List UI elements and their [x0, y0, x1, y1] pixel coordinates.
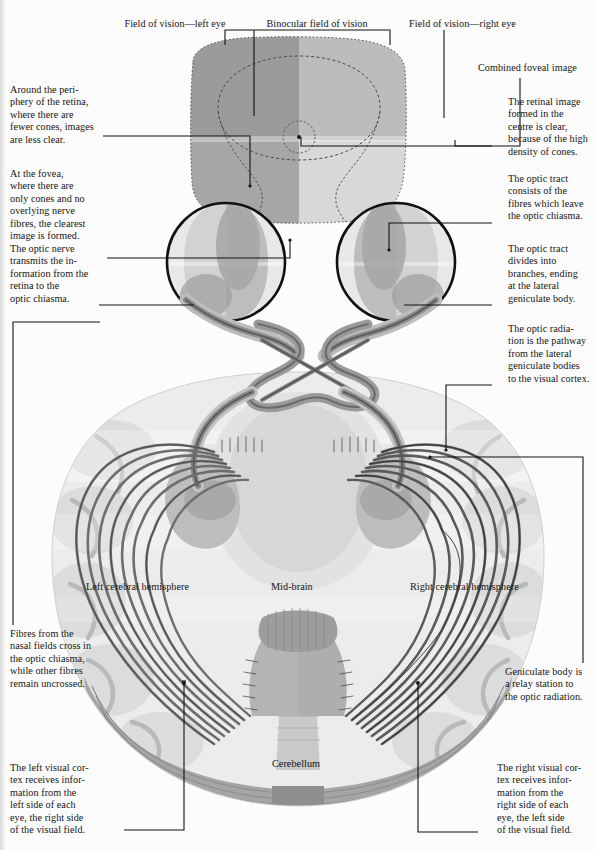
label-cerebellum: Cerebellum: [272, 758, 362, 770]
caption-line: a relay station to: [505, 678, 596, 690]
caption-line: The optic tract: [508, 243, 596, 255]
label-field-right-eye: Field of vision—right eye: [370, 18, 555, 30]
caption-line: because of the high: [508, 133, 596, 145]
caption-line: where there are: [10, 109, 115, 121]
caption-line: Around the peri-: [10, 84, 115, 96]
caption-line: mation from the: [497, 787, 596, 799]
caption-line: fibres, the clearest: [10, 218, 118, 230]
caption-line: consists of the: [508, 185, 596, 197]
caption-nasal-fields-cross: Fibres from the nasal fields cross in th…: [10, 628, 118, 690]
caption-line: only cones and no: [10, 193, 118, 205]
caption-line: are less clear.: [10, 134, 115, 146]
label-left-cerebral-hemisphere: Left cerebral hemisphere: [86, 581, 236, 593]
cerebellar-vermis: [259, 611, 338, 653]
caption-line: tex receives infor-: [497, 774, 596, 786]
caption-line: where there are: [10, 180, 118, 192]
caption-retinal-image-centre: The retinal image formed in the centre i…: [508, 96, 596, 158]
caption-line: nasal fields cross in: [10, 640, 118, 652]
caption-line: retina to the: [10, 280, 115, 292]
caption-line: tex receives infor-: [10, 774, 122, 786]
caption-optic-radiation: The optic radia- tion is the pathway fro…: [508, 323, 596, 385]
caption-line: geniculate body.: [508, 293, 596, 305]
caption-line: while other fibres: [10, 665, 118, 677]
caption-line: at the lateral: [508, 280, 596, 292]
caption-line: of the visual field.: [10, 824, 122, 836]
caption-line: branches, ending: [508, 268, 596, 280]
caption-line: overlying nerve: [10, 205, 118, 217]
caption-line: Fibres from the: [10, 628, 118, 640]
caption-line: The right visual cor-: [497, 762, 596, 774]
caption-line: The optic tract: [508, 173, 596, 185]
caption-periphery-retina: Around the peri- phery of the retina, wh…: [10, 84, 115, 146]
caption-line: remain uncrossed.: [10, 678, 118, 690]
foveal-centre-point: [297, 135, 301, 139]
caption-line: from the lateral: [508, 348, 596, 360]
caption-line: the optic chiasma.: [508, 210, 596, 222]
caption-line: divides into: [508, 255, 596, 267]
caption-line: formation from the: [10, 268, 115, 280]
label-combined-foveal-image: Combined foveal image: [478, 62, 596, 74]
caption-line: the optic radiation.: [505, 691, 596, 703]
caption-optic-tract-divides: The optic tract divides into branches, e…: [508, 243, 596, 305]
caption-line: The optic radia-: [508, 323, 596, 335]
caption-line: The optic nerve: [10, 243, 115, 255]
caption-line: Geniculate body is: [505, 666, 596, 678]
caption-at-the-fovea: At the fovea, where there are only cones…: [10, 168, 118, 242]
caption-line: density of cones.: [508, 146, 596, 158]
caption-line: eye, the right side: [10, 812, 122, 824]
caption-line: tion is the pathway: [508, 335, 596, 347]
caption-line: of the visual field.: [497, 824, 596, 836]
caption-line: mation from the: [10, 787, 122, 799]
label-mid-brain: Mid-brain: [271, 581, 341, 593]
caption-line: At the fovea,: [10, 168, 118, 180]
caption-line: transmits the in-: [10, 255, 115, 267]
caption-line: optic chiasma.: [10, 293, 115, 305]
caption-line: centre is clear,: [508, 121, 596, 133]
diagram-page: Field of vision—left eye Binocular field…: [0, 0, 596, 850]
caption-line: right side of each: [497, 799, 596, 811]
caption-optic-nerve: The optic nerve transmits the in- format…: [10, 243, 115, 305]
caption-line: left side of each: [10, 799, 122, 811]
caption-line: image is formed.: [10, 230, 118, 242]
caption-line: fewer cones, images: [10, 121, 115, 133]
caption-line: The retinal image: [508, 96, 596, 108]
caption-right-visual-cortex: The right visual cor- tex receives infor…: [497, 762, 596, 836]
caption-line: fibres which leave: [508, 198, 596, 210]
caption-optic-tract-fibres: The optic tract consists of the fibres w…: [508, 173, 596, 223]
caption-line: eye, the left side: [497, 812, 596, 824]
label-right-cerebral-hemisphere: Right cerebral hemisphere: [410, 581, 570, 593]
caption-line: The left visual cor-: [10, 762, 122, 774]
caption-line: to the visual cortex.: [508, 373, 596, 385]
caption-line: the optic chiasma,: [10, 653, 118, 665]
caption-line: geniculate bodies: [508, 360, 596, 372]
caption-left-visual-cortex: The left visual cor- tex receives infor-…: [10, 762, 122, 836]
caption-geniculate-body: Geniculate body is a relay station to th…: [505, 666, 596, 703]
caption-line: formed in the: [508, 108, 596, 120]
caption-line: phery of the retina,: [10, 96, 115, 108]
